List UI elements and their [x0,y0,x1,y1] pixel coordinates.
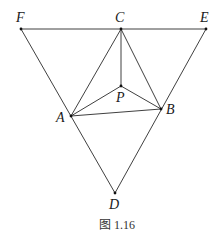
point-F [20,28,23,31]
point-P [120,85,123,88]
segment-FD [21,29,115,193]
label-D: D [108,197,119,212]
geometry-diagram: F C E P A B D 图 1.16 [0,0,220,245]
label-E: E [199,10,209,25]
point-A [70,115,73,118]
segment-ED [115,29,206,193]
point-C [120,28,123,31]
label-A: A [55,110,65,125]
label-C: C [115,10,125,25]
point-E [205,28,208,31]
label-F: F [15,10,25,25]
label-P: P [115,90,125,105]
point-D [114,192,117,195]
segment-CA [71,29,121,116]
segment-PA [71,86,121,116]
figure-caption: 图 1.16 [99,218,135,232]
point-B [160,108,163,111]
label-B: B [166,102,175,117]
segment-AB [71,109,161,116]
